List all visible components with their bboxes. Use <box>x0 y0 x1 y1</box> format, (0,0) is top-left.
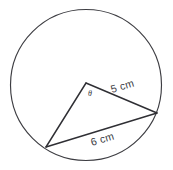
circle-outline <box>11 10 162 161</box>
geometry-canvas: θ 5 cm 6 cm <box>0 0 173 170</box>
geometry-figure: θ 5 cm 6 cm <box>0 0 173 170</box>
angle-theta-label: θ <box>88 89 92 98</box>
radius-length-label: 5 cm <box>109 76 135 94</box>
radius-segment-left <box>46 83 86 147</box>
